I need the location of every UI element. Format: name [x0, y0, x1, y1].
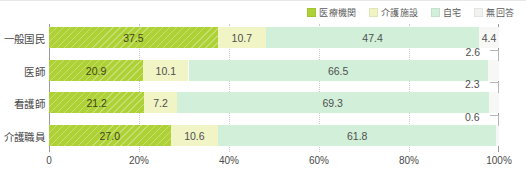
bar-segment-3: 69.3 [177, 92, 489, 113]
x-tick-label: 40% [219, 155, 239, 166]
bar-segment-1: 37.5 [49, 27, 218, 48]
legend-swatch-icon [307, 8, 316, 17]
chart-legend: 医療機関介護施設自宅無回答 [307, 6, 514, 19]
bar-value-callout: 2.3 [465, 78, 480, 90]
x-tick-label: 60% [309, 155, 329, 166]
bar-segment-4 [489, 92, 499, 113]
legend-label: 介護施設 [381, 6, 418, 19]
bar-value-label: 7.2 [153, 97, 168, 109]
legend-item-1: 医療機関 [307, 6, 356, 19]
stacked-bar-chart: 医療機関介護施設自宅無回答 一般国民医師看護師介護職員 37.510.747.4… [0, 0, 526, 178]
legend-label: 無回答 [486, 6, 514, 19]
bar-value-label: 47.4 [362, 32, 382, 44]
bar-segment-2: 10.1 [143, 60, 188, 81]
bar-value-label: 10.7 [232, 32, 252, 44]
bar-value-label: 69.3 [323, 97, 343, 109]
legend-swatch-icon [474, 8, 483, 17]
bar-row: 21.27.269.3 [49, 92, 499, 113]
bar-segment-2: 10.7 [218, 27, 266, 48]
category-label-3: 看護師 [0, 96, 45, 111]
x-tick-label: 20% [129, 155, 149, 166]
x-tick-label: 100% [486, 155, 512, 166]
bar-value-label: 10.6 [184, 130, 204, 142]
top-divider [0, 0, 526, 1]
bar-value-label: 66.5 [328, 65, 348, 77]
category-label-4: 介護職員 [0, 129, 45, 144]
bar-value-callout: 0.6 [465, 111, 480, 123]
legend-swatch-icon [431, 8, 440, 17]
bar-value-label: 21.2 [86, 97, 106, 109]
x-tick-label: 80% [399, 155, 419, 166]
legend-item-3: 自宅 [431, 6, 461, 19]
bar-segment-2: 10.6 [171, 125, 219, 146]
bar-value-label: 20.9 [86, 65, 106, 77]
bar-segment-4 [488, 60, 500, 81]
legend-label: 自宅 [443, 6, 461, 19]
bar-segment-4: 4.4 [479, 27, 499, 48]
bar-segment-1: 21.2 [49, 92, 144, 113]
legend-swatch-icon [369, 8, 378, 17]
legend-item-4: 無回答 [474, 6, 514, 19]
bar-segment-1: 27.0 [49, 125, 171, 146]
callout-leader-line [490, 50, 499, 61]
bar-segment-4 [496, 125, 499, 146]
bar-value-label: 27.0 [100, 130, 120, 142]
category-label-1: 一般国民 [0, 31, 45, 46]
legend-label: 医療機関 [319, 6, 356, 19]
bar-value-callout: 2.6 [465, 46, 480, 58]
bar-segment-1: 20.9 [49, 60, 143, 81]
bar-segment-3: 66.5 [189, 60, 488, 81]
bar-segment-3: 47.4 [266, 27, 479, 48]
x-tick-label: 0 [46, 155, 52, 166]
bar-row: 37.510.747.44.4 [49, 27, 499, 48]
callout-leader-line [490, 82, 499, 93]
bar-row: 27.010.661.8 [49, 125, 499, 146]
callout-leader-line [490, 115, 499, 126]
bar-value-label: 61.8 [347, 130, 367, 142]
bar-value-label: 10.1 [156, 65, 176, 77]
legend-item-2: 介護施設 [369, 6, 418, 19]
bar-row: 20.910.166.5 [49, 60, 499, 81]
bar-segment-2: 7.2 [144, 92, 176, 113]
category-label-2: 医師 [0, 64, 45, 79]
bar-value-label: 4.4 [482, 32, 497, 44]
bar-segment-3: 61.8 [218, 125, 496, 146]
bar-value-label: 37.5 [123, 32, 143, 44]
